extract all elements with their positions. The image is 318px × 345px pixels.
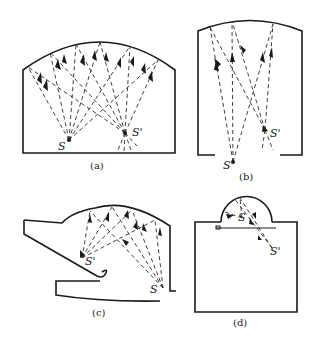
caption-b: (b) <box>239 171 253 182</box>
image-label-b: S' <box>270 127 281 140</box>
arrowheads-c <box>80 210 162 258</box>
arrowheads-b <box>214 45 273 132</box>
source-label-c: S <box>150 283 158 296</box>
room-outline-d <box>195 222 297 312</box>
image-label-c: S' <box>85 255 96 268</box>
source-label-d: S <box>238 211 246 224</box>
source-label-a: S <box>58 140 66 153</box>
caption-a: (a) <box>90 160 104 171</box>
source-point-s <box>67 138 71 142</box>
source-point-b <box>231 160 235 164</box>
panel-a: S S' (a) <box>23 42 175 171</box>
image-point-s-prime <box>123 131 127 135</box>
room-outline-b <box>198 21 302 156</box>
panel-d: S S' (d) <box>195 197 297 328</box>
source-label-b: S <box>223 159 231 172</box>
panel-b: S S' (b) <box>198 21 302 183</box>
panel-c: S' S (c) <box>24 205 176 318</box>
acoustic-reflection-diagram: S S' (a) S S' (b) <box>0 0 318 345</box>
image-label-d: S' <box>270 245 281 258</box>
room-outline-c <box>24 205 176 291</box>
rays-b <box>210 21 273 162</box>
caption-d: (d) <box>233 317 247 328</box>
balcony-c <box>56 281 160 301</box>
room-outline-a <box>23 42 175 153</box>
image-label-a: S' <box>132 126 143 139</box>
rays-c <box>82 207 163 288</box>
caption-c: (c) <box>92 307 106 318</box>
